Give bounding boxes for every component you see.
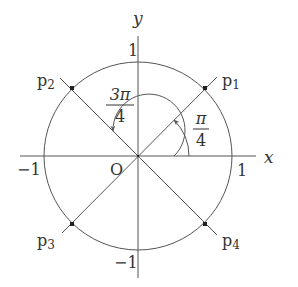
angle-label-3pi-over-4: 3π 4 xyxy=(106,85,134,126)
point-p2 xyxy=(70,86,74,90)
y-neg-tick-label: −1 xyxy=(114,253,138,272)
point-label-p1: p1 xyxy=(222,71,240,92)
point-label-p4: p4 xyxy=(222,231,240,252)
point-p1 xyxy=(203,86,207,90)
point-label-p3: p3 xyxy=(37,231,55,252)
point-label-p2: p2 xyxy=(37,71,55,92)
svg-text:4: 4 xyxy=(115,107,125,126)
y-axis-label: y xyxy=(132,8,143,28)
y-pos-tick-label: 1 xyxy=(128,41,138,60)
diagonal-line-p1-p3 xyxy=(62,77,217,233)
svg-text:4: 4 xyxy=(196,131,206,150)
x-neg-tick-label: −1 xyxy=(17,160,41,179)
svg-text:3π: 3π xyxy=(110,85,131,104)
point-p3 xyxy=(70,222,74,226)
origin-point xyxy=(137,155,139,157)
unit-circle-diagram: y x O 1 −1 −1 1 p1 p2 p3 p4 3π 4 π 4 xyxy=(0,0,298,287)
angle-label-pi-over-4: π 4 xyxy=(193,109,209,150)
angle-arc-pi-over-4 xyxy=(174,120,189,156)
origin-label: O xyxy=(110,160,123,179)
svg-text:π: π xyxy=(195,109,207,128)
point-p4 xyxy=(203,222,207,226)
x-axis-label: x xyxy=(264,147,274,167)
x-pos-tick-label: 1 xyxy=(237,161,247,180)
